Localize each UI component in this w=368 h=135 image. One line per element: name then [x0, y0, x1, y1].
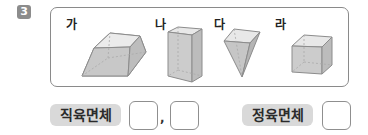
cuboid-answer-box-1[interactable]: [129, 101, 158, 130]
cuboid-label: 직육면체: [50, 104, 121, 126]
cube-label: 정육면체: [242, 104, 313, 126]
cube-shape: [290, 32, 334, 76]
cuboid-answer-box-2[interactable]: [170, 101, 199, 130]
cube-answer-box[interactable]: [322, 101, 351, 130]
inverted-pyramid-shape: [222, 27, 262, 79]
answer-separator: ,: [160, 111, 165, 125]
shape-label-ga: 가: [66, 15, 77, 32]
truncated-pyramid-shape: [80, 30, 150, 80]
rectangular-prism-shape: [166, 26, 206, 84]
shape-label-na: 나: [155, 15, 166, 32]
shape-label-ra: 라: [275, 15, 286, 32]
problem-number-badge: 3: [17, 5, 31, 19]
